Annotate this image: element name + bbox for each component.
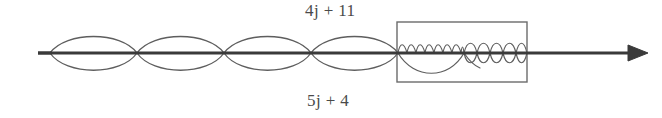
envelope-lobe-lower-1	[50, 53, 137, 70]
slow-envelope-arc	[398, 53, 464, 73]
envelope-lobe-upper-2	[137, 37, 224, 54]
lower-wave-label: 5j + 4	[307, 92, 349, 109]
beat-pattern-figure: 4j + 11 5j + 4	[0, 0, 662, 118]
envelope-lobe-upper-4	[311, 37, 398, 54]
horizontal-axis-arrow	[38, 45, 648, 61]
envelope-lobe-lower-3	[224, 53, 311, 70]
envelope-lobe-lower-4	[311, 53, 398, 70]
envelope-lobe-upper-1	[50, 37, 137, 54]
axis-arrowhead	[628, 45, 648, 61]
envelope-lobe-lower-2	[137, 53, 224, 70]
upper-wave-label: 4j + 11	[305, 2, 355, 19]
envelope-lobe-upper-3	[224, 37, 311, 54]
boxed-detail-contents	[398, 43, 527, 73]
